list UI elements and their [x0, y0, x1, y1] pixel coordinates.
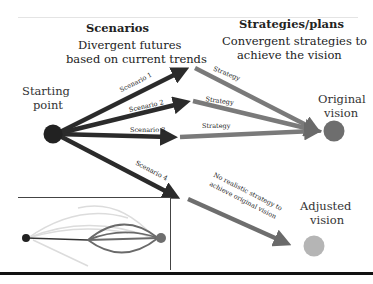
scenario-3-label: Scenario 3	[130, 126, 165, 134]
strategy-3-label: Strategy	[202, 122, 230, 130]
original-vision-node	[324, 121, 345, 142]
starting-point-node	[44, 125, 63, 144]
bottom-rule	[0, 272, 373, 275]
inset-summary-graphic	[18, 198, 170, 270]
inset-summary-diagram	[18, 197, 171, 270]
strategy-arrows	[180, 68, 314, 242]
adjusted-vision-node	[304, 236, 325, 257]
